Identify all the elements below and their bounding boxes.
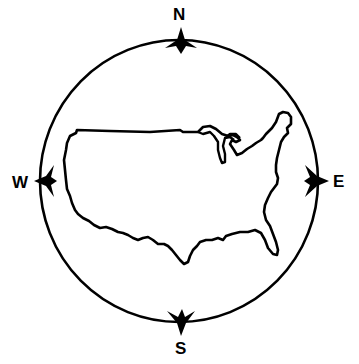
east-label: E [333, 173, 344, 190]
compass-rose [0, 0, 359, 364]
west-label: W [12, 174, 28, 191]
us-map-outline [64, 112, 291, 264]
west-arrow-icon [34, 165, 57, 197]
north-label: N [173, 6, 185, 23]
south-label: S [175, 340, 186, 357]
